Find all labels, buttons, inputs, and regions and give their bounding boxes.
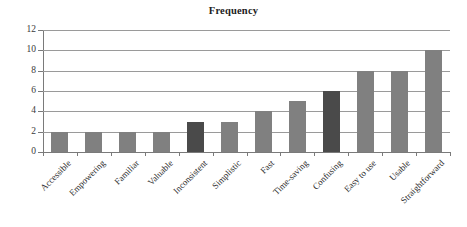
x-tick — [450, 152, 451, 156]
y-axis-labels: 024681012 — [0, 0, 36, 227]
bar[interactable] — [289, 101, 306, 152]
x-axis-category-label: Familiar — [112, 158, 141, 187]
x-tick — [43, 152, 44, 156]
x-tick — [280, 152, 281, 156]
bar[interactable] — [51, 132, 68, 152]
x-tick — [111, 152, 112, 156]
y-axis-tick-label: 2 — [6, 127, 36, 137]
x-axis-category-label: Fast — [259, 158, 277, 176]
x-axis-category-label: Time-saving — [271, 158, 310, 197]
x-axis-category-label: Confusing — [311, 158, 345, 192]
bar[interactable] — [85, 132, 102, 152]
bar[interactable] — [391, 71, 408, 152]
x-axis-category-label: Simplistic — [210, 158, 243, 191]
x-tick — [247, 152, 248, 156]
gridline-10 — [43, 50, 450, 51]
plot-area — [43, 30, 450, 152]
chart-title: Frequency — [0, 5, 467, 17]
x-tick — [382, 152, 383, 156]
bar[interactable] — [119, 132, 136, 152]
y-tick-8 — [38, 71, 43, 72]
gridline-12 — [43, 30, 450, 31]
x-axis-category-label: Valuable — [145, 158, 174, 187]
y-axis-tick-label: 0 — [6, 147, 36, 157]
bar[interactable] — [187, 122, 204, 153]
x-tick — [145, 152, 146, 156]
frequency-bar-chart: Frequency 024681012 AccessibleEmpowering… — [0, 0, 467, 227]
bar[interactable] — [323, 91, 340, 152]
y-tick-12 — [38, 30, 43, 31]
y-tick-10 — [38, 50, 43, 51]
x-tick — [314, 152, 315, 156]
bar[interactable] — [357, 71, 374, 152]
y-axis-tick-label: 12 — [6, 25, 36, 35]
y-axis-tick-label: 8 — [6, 66, 36, 76]
x-axis-category-label: Inconsistent — [171, 158, 209, 196]
x-axis-category-label: Easy to use — [342, 158, 378, 194]
gridline-2 — [43, 132, 450, 133]
gridline-8 — [43, 71, 450, 72]
y-axis-tick-label: 10 — [6, 45, 36, 55]
y-tick-2 — [38, 132, 43, 133]
y-axis-tick-label: 4 — [6, 106, 36, 116]
y-tick-4 — [38, 111, 43, 112]
x-tick — [179, 152, 180, 156]
bar[interactable] — [221, 122, 238, 153]
x-tick — [348, 152, 349, 156]
bar[interactable] — [153, 132, 170, 152]
x-tick — [213, 152, 214, 156]
x-tick — [77, 152, 78, 156]
y-axis-tick-label: 6 — [6, 86, 36, 96]
x-tick — [416, 152, 417, 156]
bar[interactable] — [255, 111, 272, 152]
gridline-6 — [43, 91, 450, 92]
gridline-4 — [43, 111, 450, 112]
bar[interactable] — [425, 50, 442, 152]
y-tick-6 — [38, 91, 43, 92]
x-axis-category-label: Accessible — [38, 158, 73, 193]
x-axis-category-label: Usable — [387, 158, 412, 183]
